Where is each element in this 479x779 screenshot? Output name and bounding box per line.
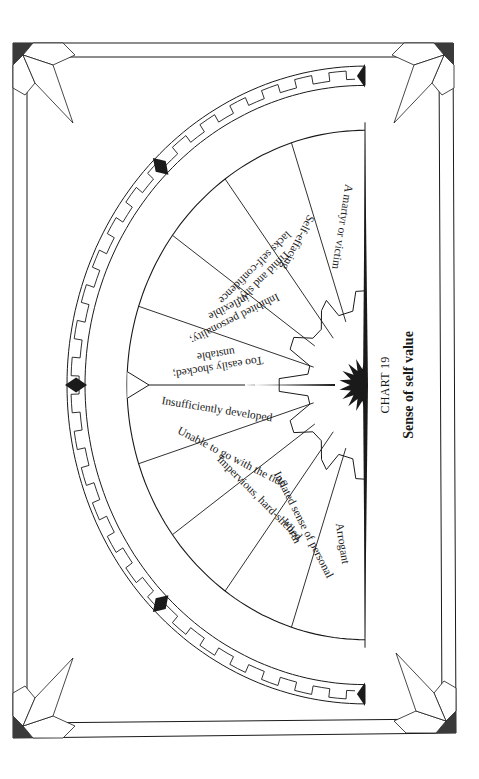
chart-page: A martyr or victimSelf-effacingTimid and… <box>0 0 479 779</box>
corner-ornament-icon <box>392 43 454 123</box>
segment-9: Arrogant <box>333 522 352 566</box>
segment-6: Unable to go with the tide <box>175 424 288 490</box>
segment-4: Too easily shocked;unstable <box>170 342 264 381</box>
chart-title: Sense of self value <box>401 331 416 439</box>
chart-number: CHART 19 <box>378 356 392 413</box>
chart-canvas: A martyr or victimSelf-effacingTimid and… <box>0 0 479 779</box>
segment-label: Unable to go with the tide <box>175 424 288 490</box>
diameter-spine <box>363 130 368 640</box>
fan-notch <box>127 372 149 399</box>
segment-label: A martyr or victim <box>329 183 355 270</box>
diamond-marker-icon <box>357 683 365 707</box>
segment-5: Insufficiently developed <box>161 394 274 424</box>
corner-ornament-icon <box>13 43 75 123</box>
segment-label: Arrogant <box>333 522 352 566</box>
starburst-icon <box>339 357 365 413</box>
diamond-marker-icon <box>153 595 169 612</box>
corner-ornament-icon <box>394 653 456 733</box>
pointer-needle-icon <box>245 384 335 386</box>
diamond-marker-icon <box>357 64 365 88</box>
corner-ornament-icon <box>13 658 75 738</box>
diamond-marker-icon <box>65 377 87 392</box>
segment-0: A martyr or victim <box>329 183 355 270</box>
title-group: CHART 19 <box>378 356 392 413</box>
segment-8: Inflated sense of personalworth <box>260 469 336 585</box>
diamond-marker-icon <box>153 158 169 175</box>
segment-label: Insufficiently developed <box>161 394 274 424</box>
center-starburst <box>149 130 368 640</box>
